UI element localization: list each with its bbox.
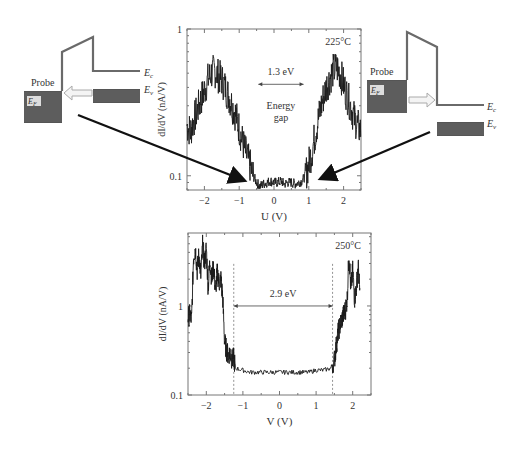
hollow-arrow-right-icon: [409, 93, 435, 107]
barrier-outline-left: [62, 37, 140, 91]
y-axis-label: dI/dV (nA/V): [156, 82, 168, 137]
x-tick-label: −2: [199, 195, 210, 206]
ec-label-right: Ec: [486, 101, 497, 114]
x-tick-label: −1: [238, 400, 249, 411]
ev-label-right: Ev: [486, 118, 497, 131]
probe-label-left: Probe: [31, 77, 55, 88]
x-tick-label: 0: [277, 400, 282, 411]
x-tick-label: 2: [350, 400, 355, 411]
x-tick-label: 1: [314, 400, 319, 411]
x-axis-label: V (V): [267, 415, 293, 428]
band-diagram-left: EF Probe Ec Ev: [24, 37, 154, 123]
energy-gap-label: gap: [274, 112, 288, 123]
y-tick-label: 0.1: [171, 390, 184, 401]
x-axis-label: U (V): [261, 210, 287, 223]
plot-250C: −2−10120.11V (V)dI/dV (nA/V)250°C2.9 eV: [157, 233, 371, 428]
x-tick-label: 2: [341, 195, 346, 206]
ec-label-left: Ec: [143, 67, 154, 80]
temperature-label: 225°C: [325, 36, 351, 47]
dIdV-curve: [188, 235, 360, 375]
y-tick-label: 1: [178, 301, 183, 312]
x-tick-label: 0: [272, 195, 277, 206]
plot-225C: −2−10120.11U (V)dI/dV (nA/V)225°C1.3 eVE…: [156, 24, 361, 223]
probe-label-right: Probe: [370, 66, 394, 77]
y-tick-label: 1: [177, 24, 182, 35]
figure: EF Probe Ec Ev EF Probe Ec Ev −2−10120.1…: [0, 0, 518, 451]
x-tick-label: 1: [306, 195, 311, 206]
gap-value-label: 1.3 eV: [268, 66, 295, 77]
temperature-label: 250°C: [335, 240, 361, 251]
hollow-arrow-left-icon: [64, 86, 92, 100]
gap-value-label: 2.9 eV: [270, 288, 297, 299]
x-tick-label: −2: [201, 400, 212, 411]
x-tick-label: −1: [234, 195, 245, 206]
energy-gap-label: Energy: [267, 100, 296, 111]
y-axis-label: dI/dV (nA/V): [157, 287, 169, 342]
barrier-outline-right: [407, 32, 484, 105]
y-tick-label: 0.1: [170, 171, 183, 182]
pointer-arrow-right-icon: [322, 132, 430, 178]
band-diagram-right: EF Probe Ec Ev: [367, 32, 497, 136]
ev-label-left: Ev: [143, 84, 154, 97]
